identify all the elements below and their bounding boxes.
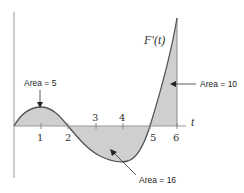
tick-label-2: 2 xyxy=(65,132,71,143)
t-axis-label: t xyxy=(191,115,195,129)
tick-label-6: 6 xyxy=(173,132,179,143)
tick-label-5: 5 xyxy=(150,132,156,143)
tick-label-4: 4 xyxy=(119,112,125,123)
area-label-2: Area = 16 xyxy=(139,175,176,185)
area-label-3: Area = 10 xyxy=(200,79,237,89)
tick-label-3: 3 xyxy=(92,112,98,123)
area-label-1: Area = 5 xyxy=(24,78,57,88)
area-region-2 xyxy=(68,126,150,162)
tick-label-1: 1 xyxy=(37,132,43,143)
function-label: F'(t) xyxy=(143,33,165,47)
chart: 1 2 3 4 5 6 t F'(t) Area = 5 Area = 10 A… xyxy=(0,0,244,193)
